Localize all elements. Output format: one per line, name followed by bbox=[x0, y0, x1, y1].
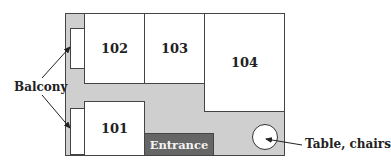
arrow-table bbox=[266, 139, 302, 145]
arrow-balcony-lower bbox=[42, 95, 70, 128]
arrow-balcony-upper bbox=[42, 47, 70, 78]
